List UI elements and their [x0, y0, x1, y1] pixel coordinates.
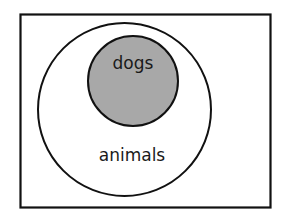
euler-diagram: dogs animals [0, 0, 287, 215]
dogs-circle [88, 36, 178, 126]
animals-label: animals [99, 145, 166, 165]
dogs-label: dogs [113, 53, 154, 73]
